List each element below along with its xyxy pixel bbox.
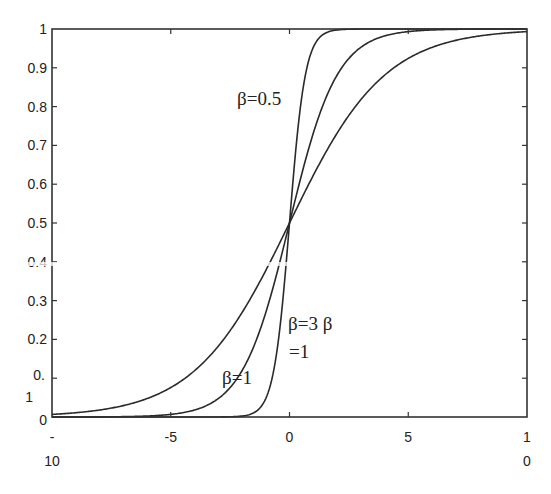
x-tick-label-wrap: 10 — [44, 453, 60, 469]
y-tick-label: 0 — [39, 412, 47, 428]
y-tick-label: 0.9 — [28, 60, 48, 76]
curve-annotations: β=0.5 β=3 β =1 β=1 — [222, 88, 332, 388]
x-tick-label: - — [50, 429, 55, 445]
scan-artifact-band — [0, 262, 320, 266]
x-tick-label: -5 — [165, 429, 178, 445]
annotation-beta-0-5: β=0.5 — [237, 88, 281, 109]
x-tick-label: 0 — [286, 429, 294, 445]
y-tick-label: 0.6 — [28, 176, 48, 192]
y-tick-label: 0.3 — [28, 293, 48, 309]
annotation-beta-1: β=1 — [222, 367, 252, 388]
y-tick-label: 0.7 — [28, 137, 48, 153]
y-axis-tick-labels: 00.10.20.30.40.50.60.70.80.91 — [25, 21, 47, 428]
y-tick-label: 0.2 — [28, 331, 48, 347]
y-tick-label: 0. — [33, 367, 45, 383]
sigmoid-chart: 00.10.20.30.40.50.60.70.80.91 -10-50510 … — [0, 0, 551, 494]
x-tick-label: 1 — [523, 429, 531, 445]
y-tick-label: 0.5 — [28, 215, 48, 231]
y-tick-label: 0.8 — [28, 99, 48, 115]
x-tick-label: 5 — [404, 429, 412, 445]
y-tick-label: 1 — [39, 21, 47, 37]
annotation-beta-3: β=3 β — [288, 313, 332, 334]
x-tick-label-wrap: 0 — [523, 453, 531, 469]
x-axis-tick-labels: -10-50510 — [44, 429, 531, 469]
y-tick-label: 0.4 — [28, 254, 48, 270]
y-tick-label-wrap: 1 — [25, 389, 33, 405]
annotation-eq-1: =1 — [289, 341, 309, 362]
